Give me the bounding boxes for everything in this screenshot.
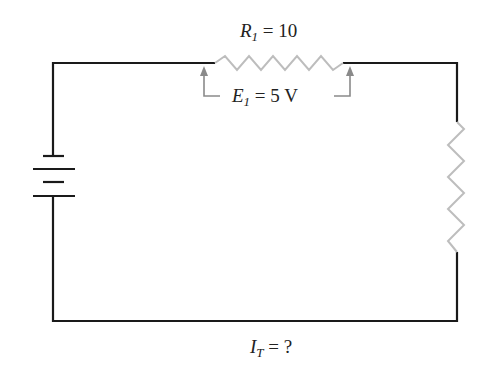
e1-eq: =: [255, 85, 266, 106]
wire-top-left: [53, 63, 215, 157]
e1-subscript: 1: [244, 94, 251, 109]
e1-label: E1 = 5 V: [232, 85, 298, 107]
arrow-up-right-icon: [346, 66, 354, 76]
r1-symbol: R: [240, 20, 252, 41]
resistor-r2-icon: [448, 122, 464, 252]
it-eq: =: [268, 336, 279, 357]
resistor-r1-icon: [215, 56, 343, 70]
e1-value: 5 V: [270, 85, 298, 106]
it-value: ?: [284, 336, 292, 357]
arrow-up-left-icon: [200, 66, 208, 76]
wire-top-right: [343, 63, 457, 122]
it-subscript: T: [256, 345, 263, 360]
r1-value: 10: [278, 20, 297, 41]
r1-subscript: 1: [252, 29, 259, 44]
battery-icon: [33, 156, 75, 196]
wire-bottom: [53, 196, 457, 321]
r1-eq: =: [263, 20, 274, 41]
circuit-diagram: [0, 0, 485, 371]
r1-label: R1 = 10: [240, 20, 297, 42]
e1-symbol: E: [232, 85, 244, 106]
it-label: IT = ?: [250, 336, 292, 358]
